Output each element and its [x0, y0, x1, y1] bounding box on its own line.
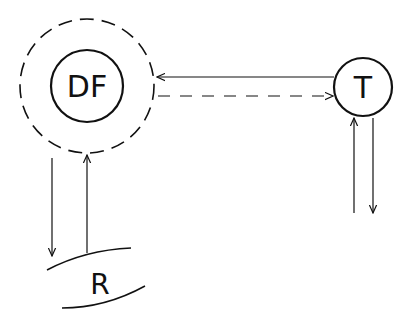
diagram-canvas: DF T R: [0, 0, 413, 326]
node-t: T: [334, 58, 392, 116]
r-upper-arc: [47, 248, 131, 270]
r-label: R: [90, 268, 109, 301]
node-r: R: [47, 248, 145, 308]
df-label: DF: [67, 69, 107, 104]
node-df: DF: [20, 19, 154, 153]
t-label: T: [353, 70, 373, 105]
